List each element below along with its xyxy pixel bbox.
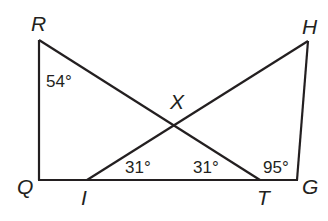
angle-htg-label: 95° [263, 158, 289, 177]
point-label-q: Q [17, 175, 33, 198]
point-label-r: R [31, 12, 46, 35]
point-label-h: H [302, 15, 318, 38]
angle-xit-label: 31° [125, 158, 151, 177]
segment-hg [297, 41, 308, 180]
point-label-x: X [169, 90, 185, 113]
angle-r-label: 54° [46, 72, 72, 91]
point-label-g: G [302, 175, 318, 198]
point-label-t: T [257, 186, 272, 209]
point-label-i: I [81, 186, 87, 209]
geometry-diagram: R H X Q I T G 54° 31° 31° 95° [0, 0, 328, 221]
angle-xti-label: 31° [193, 158, 219, 177]
